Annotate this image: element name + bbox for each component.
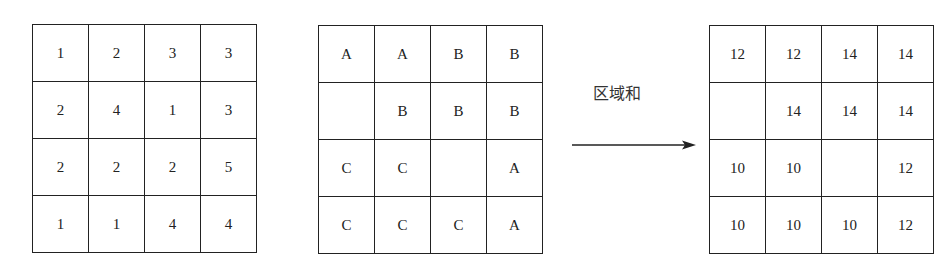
grid-cell: 3 <box>201 82 257 139</box>
grid-cell <box>710 83 766 140</box>
grid-cell: B <box>431 26 487 83</box>
grid-cell: A <box>375 26 431 83</box>
grid-cell: 14 <box>878 26 934 83</box>
grid-cell: 4 <box>145 196 201 253</box>
grid-cell: C <box>375 140 431 197</box>
grid-cell: 2 <box>89 139 145 196</box>
grid-cell: 1 <box>33 196 89 253</box>
grid-cell: 1 <box>33 25 89 82</box>
grid-cell: 2 <box>145 139 201 196</box>
grid-cell: 14 <box>822 26 878 83</box>
grid-cell: 4 <box>89 82 145 139</box>
grid-cell: 14 <box>878 83 934 140</box>
grid-cell: 2 <box>33 82 89 139</box>
grid-cell <box>431 140 487 197</box>
grid-cell: 12 <box>766 26 822 83</box>
arrow-label: 区域和 <box>593 80 641 104</box>
value-grid: 1233241322251144 <box>32 24 257 253</box>
grid-cell <box>319 83 375 140</box>
grid-cell: 1 <box>89 196 145 253</box>
grid-cell: 10 <box>710 140 766 197</box>
grid-cell: A <box>487 197 543 254</box>
grid-cell: 4 <box>201 196 257 253</box>
grid-cell: B <box>375 83 431 140</box>
grid-cell: 12 <box>878 140 934 197</box>
region-label-grid: AABBBBBCCACCCA <box>318 25 543 254</box>
grid-cell: 14 <box>822 83 878 140</box>
right-arrow-icon <box>572 138 696 152</box>
grid-cell: 12 <box>878 197 934 254</box>
grid-cell: 3 <box>201 25 257 82</box>
grid-cell: 10 <box>766 197 822 254</box>
grid-cell: C <box>431 197 487 254</box>
grid-cell: 2 <box>33 139 89 196</box>
region-sum-grid: 1212141414141410101210101012 <box>709 25 934 254</box>
grid-cell: 10 <box>766 140 822 197</box>
grid-cell: 14 <box>766 83 822 140</box>
grid-cell: A <box>319 26 375 83</box>
grid-cell <box>822 140 878 197</box>
grid-cell: C <box>319 197 375 254</box>
grid-cell: B <box>487 26 543 83</box>
grid-cell: 2 <box>89 25 145 82</box>
grid-cell: 12 <box>710 26 766 83</box>
grid-cell: C <box>375 197 431 254</box>
grid-cell: 5 <box>201 139 257 196</box>
grid-cell: A <box>487 140 543 197</box>
grid-cell: B <box>431 83 487 140</box>
grid-cell: 1 <box>145 82 201 139</box>
grid-cell: C <box>319 140 375 197</box>
grid-cell: 10 <box>822 197 878 254</box>
grid-cell: 3 <box>145 25 201 82</box>
grid-cell: 10 <box>710 197 766 254</box>
grid-cell: B <box>487 83 543 140</box>
